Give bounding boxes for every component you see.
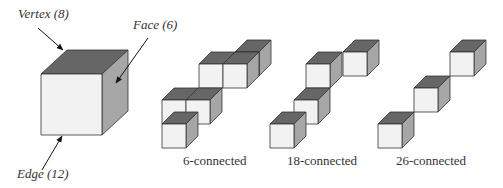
main-cube <box>41 50 128 135</box>
cube <box>414 76 450 112</box>
six-connected-label: 6-connected <box>183 153 247 169</box>
face-label: Face (6) <box>133 17 177 33</box>
cube <box>378 112 414 148</box>
twentysix-connected-label: 26-connected <box>396 153 466 169</box>
cube <box>450 40 486 76</box>
vertex-arrow <box>38 28 63 50</box>
edge-label: Edge (12) <box>17 166 69 182</box>
eighteen-connected-label: 18-connected <box>287 153 357 169</box>
vertex-label: Vertex (8) <box>18 6 69 22</box>
eighteen-connected-cubes <box>270 40 379 148</box>
twentysix-connected-cubes <box>378 40 486 148</box>
cube <box>343 40 379 76</box>
cube <box>41 50 128 135</box>
six-connected-cubes <box>162 40 271 148</box>
edge-arrow <box>42 136 62 170</box>
cube <box>270 112 306 148</box>
cube <box>306 52 342 88</box>
